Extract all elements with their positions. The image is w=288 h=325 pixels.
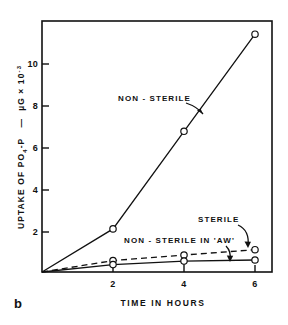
series-non-sterile-in-aw xyxy=(42,257,258,272)
series-non-sterile-in-aw-line xyxy=(42,260,255,272)
y-tick-label-4: 4 xyxy=(33,185,38,195)
data-point xyxy=(252,247,258,253)
data-point xyxy=(181,128,187,134)
data-point xyxy=(252,31,258,37)
data-point xyxy=(252,257,258,263)
data-point xyxy=(110,226,116,232)
data-point xyxy=(181,252,187,258)
annotation-sterile-arrowhead xyxy=(245,242,252,249)
y-axis-title: UPTAKE OF PO4-P — µG × 10-3 xyxy=(16,65,28,229)
y-tick-label-8: 8 xyxy=(33,101,38,111)
y-axis-title-prefix: UPTAKE OF PO xyxy=(16,153,26,229)
x-axis-tick-labels: 2 4 6 xyxy=(110,279,257,289)
data-point xyxy=(110,261,116,267)
y-tick-label-10: 10 xyxy=(27,59,38,69)
x-tick-label-2: 2 xyxy=(110,279,115,289)
x-tick-label-4: 4 xyxy=(181,279,186,289)
y-axis-ticks xyxy=(42,64,49,232)
data-point xyxy=(181,258,187,264)
y-axis-title-middle: -P xyxy=(16,138,26,149)
chart-svg: 10 8 6 4 2 2 4 6 TIME IN HOURS UPTAKE OF… xyxy=(0,0,288,325)
annotation-non-sterile-in-aw: NON - STERILE IN 'AW' xyxy=(124,236,235,262)
annotation-non-sterile: NON - STERILE xyxy=(118,94,203,114)
y-tick-label-6: 6 xyxy=(33,143,38,153)
panel-label: b xyxy=(14,296,22,311)
annotation-non-sterile-in-aw-label: NON - STERILE IN 'AW' xyxy=(124,236,235,245)
x-axis-title: TIME IN HOURS xyxy=(120,298,205,308)
y-tick-label-2: 2 xyxy=(33,227,38,237)
y-axis-tick-labels: 10 8 6 4 2 xyxy=(27,59,38,237)
x-axis-ticks xyxy=(113,265,255,272)
y-axis-title-units: µG × 10 xyxy=(16,72,26,110)
x-tick-label-6: 6 xyxy=(252,279,257,289)
figure-panel-b: 10 8 6 4 2 2 4 6 TIME IN HOURS UPTAKE OF… xyxy=(0,0,288,325)
annotation-sterile-label: STERILE xyxy=(198,215,239,224)
y-axis-title-dash: — xyxy=(16,118,26,128)
y-axis-title-exponent: -3 xyxy=(16,65,22,73)
svg-text:UPTAKE OF PO4-P — µG × 10-3: UPTAKE OF PO4-P — µG × 10-3 xyxy=(16,65,28,229)
annotation-non-sterile-label: NON - STERILE xyxy=(118,94,191,103)
